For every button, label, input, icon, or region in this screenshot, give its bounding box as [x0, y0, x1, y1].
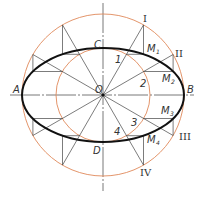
label-inner-2: 2	[140, 78, 146, 89]
svg-text:M: M	[162, 73, 171, 84]
label-a: A	[12, 84, 20, 95]
svg-text:M: M	[161, 105, 170, 116]
svg-text:M: M	[147, 134, 156, 145]
label-outer-III: III	[179, 131, 191, 142]
label-d: D	[93, 145, 101, 156]
label-outer-I: I	[143, 13, 147, 24]
label-outer-II: II	[175, 48, 183, 59]
svg-text:4: 4	[156, 139, 160, 146]
label-b: B	[187, 84, 194, 95]
svg-text:M: M	[147, 43, 156, 54]
svg-text:1: 1	[156, 48, 160, 55]
label-m3: M 3	[161, 105, 174, 117]
label-outer-IV: IV	[140, 167, 152, 178]
svg-text:2: 2	[171, 78, 175, 85]
label-m2: M 2	[162, 73, 175, 85]
ellipse-construction-diagram: O A B C D 1 2 3 4 I II III IV M 1 M 2 M …	[0, 0, 203, 197]
label-c: C	[94, 39, 101, 50]
label-inner-4: 4	[114, 126, 120, 137]
label-m4: M 4	[147, 134, 160, 146]
label-m1: M 1	[147, 43, 160, 55]
label-inner-1: 1	[115, 54, 121, 65]
label-inner-3: 3	[131, 117, 137, 128]
label-center: O	[95, 84, 103, 95]
svg-text:3: 3	[170, 110, 174, 117]
